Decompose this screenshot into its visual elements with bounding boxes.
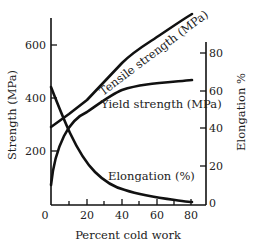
- xtick-label-20: 20: [80, 209, 94, 222]
- xtick-label-40: 40: [115, 209, 129, 222]
- y2tick-label-80: 80: [209, 47, 223, 60]
- y2tick-label-0: 0: [209, 197, 216, 210]
- right-y-axis-title: Elongation %: [234, 73, 248, 151]
- strength-elongation-chart: 600 400 200 0 20 40 60 80 80 60 40 20 0 …: [0, 0, 257, 248]
- ytick-label-200: 200: [25, 145, 46, 158]
- left-y-axis-title: Strength (MPa): [5, 70, 19, 160]
- x-axis-title: Percent cold work: [75, 228, 182, 242]
- xtick-label-0: 0: [42, 209, 49, 222]
- y2tick-label-40: 40: [209, 122, 223, 135]
- yield-strength-label: Yield strength (MPa): [100, 97, 222, 111]
- xtick-label-60: 60: [150, 209, 164, 222]
- ytick-label-600: 600: [25, 39, 46, 52]
- ytick-label-400: 400: [25, 92, 46, 105]
- y2tick-label-20: 20: [209, 160, 223, 173]
- xtick-label-80: 80: [184, 209, 198, 222]
- elongation-label: Elongation (%): [108, 169, 195, 183]
